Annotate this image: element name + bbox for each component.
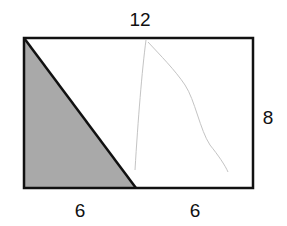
label-bottom-right: 6 <box>190 200 201 221</box>
label-top: 12 <box>129 9 150 30</box>
geometry-diagram: 12 8 6 6 <box>0 0 287 226</box>
label-right: 8 <box>263 107 274 128</box>
label-bottom-left: 6 <box>75 200 86 221</box>
pencil-mark <box>135 40 228 172</box>
